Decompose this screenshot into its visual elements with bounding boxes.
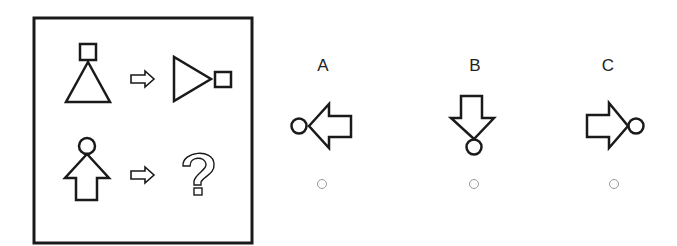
option-c-radio[interactable] xyxy=(609,179,619,189)
circle-up-arrow-figure xyxy=(65,138,109,200)
question-box xyxy=(34,18,252,243)
puzzle-canvas xyxy=(0,0,677,246)
transform-arrow-icon xyxy=(131,71,154,87)
rotated-triangle-square-figure xyxy=(174,57,231,101)
option-b-figure[interactable] xyxy=(451,96,494,155)
option-c-figure[interactable] xyxy=(587,103,644,148)
option-a-radio[interactable] xyxy=(317,179,327,189)
option-a-figure[interactable] xyxy=(292,104,352,148)
option-b-label: B xyxy=(469,56,480,76)
question-mark-icon xyxy=(183,153,214,195)
option-c-label: C xyxy=(602,56,614,76)
transform-arrow-icon xyxy=(131,167,154,183)
triangle-square-figure xyxy=(66,44,110,102)
option-b-radio[interactable] xyxy=(469,179,479,189)
option-a-label: A xyxy=(317,56,328,76)
